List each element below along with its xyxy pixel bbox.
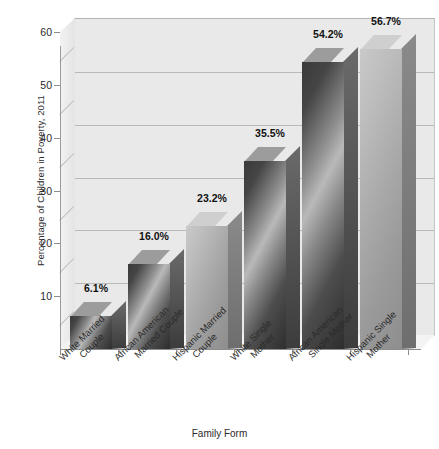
x-axis-title: Family Form: [0, 428, 439, 439]
bar-front-face: [360, 49, 402, 349]
bar-value-label-4: 35.5%: [242, 127, 298, 139]
y-axis-tick-labels: 60 50 40 30 20 10: [28, 32, 52, 349]
y-tick-label-10: 10: [30, 290, 52, 302]
bar-side-face: [285, 146, 300, 349]
bar-value-label-6: 56.7%: [358, 15, 414, 27]
bar-value-label-3: 23.2%: [184, 192, 240, 204]
bar-value-label-5: 54.2%: [300, 28, 356, 40]
y-axis-line: [60, 46, 61, 350]
y-tick-label-40: 40: [30, 132, 52, 144]
y-tick-label-20: 20: [30, 237, 52, 249]
plot-area: 6.1% 16.0% 23.2% 35.5% 54.2% 56.7%: [60, 32, 420, 349]
x-axis-category-labels: White Married Couple African American Ma…: [0, 349, 439, 424]
bar-hispanic-single-mother[interactable]: [360, 49, 402, 349]
bar-side-face: [401, 34, 416, 349]
bar-value-label-2: 16.0%: [126, 230, 182, 242]
bar-side-face: [343, 47, 358, 349]
bar-chart: Percentage of Children in Poverty, 2011 …: [0, 0, 439, 449]
y-tick-label-50: 50: [30, 79, 52, 91]
y-tick-label-60: 60: [30, 26, 52, 38]
bar-value-label-1: 6.1%: [68, 282, 124, 294]
y-tick-label-30: 30: [30, 185, 52, 197]
